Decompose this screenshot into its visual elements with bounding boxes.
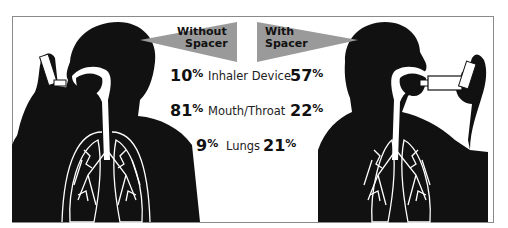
without-value-inhaler-device: 10% bbox=[170, 66, 203, 85]
site-label-inhaler-device: Inhaler Device bbox=[208, 69, 291, 83]
with-value-inhaler-device: 57% bbox=[290, 66, 323, 85]
row-mouth-throat: 81% Mouth/Throat 22% bbox=[0, 101, 508, 121]
without-label-line2: Spacer bbox=[185, 38, 228, 50]
row-lungs: 9% Lungs 21% bbox=[0, 136, 508, 156]
row-inhaler-device: 10% Inhaler Device 57% bbox=[0, 66, 508, 86]
site-label-lungs: Lungs bbox=[226, 139, 260, 153]
without-spacer-label: Without Spacer bbox=[177, 26, 228, 50]
without-value-mouth-throat: 81% bbox=[170, 101, 203, 120]
with-label-line2: Spacer bbox=[265, 38, 308, 50]
without-value-lungs: 9% bbox=[196, 136, 218, 155]
with-value-mouth-throat: 22% bbox=[290, 101, 323, 120]
with-spacer-label: With Spacer bbox=[265, 26, 308, 50]
site-label-mouth-throat: Mouth/Throat bbox=[208, 104, 285, 118]
with-value-lungs: 21% bbox=[263, 136, 296, 155]
